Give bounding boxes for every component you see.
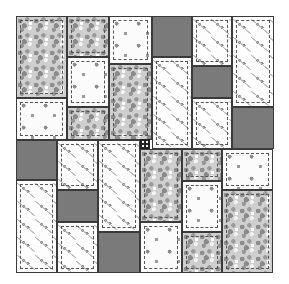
quilt-patch-white-floral (222, 149, 273, 190)
quilt-patch-white-floral (182, 181, 222, 232)
quilt-patch-white-branch (57, 222, 98, 273)
quilt-patch-white-branch (232, 16, 274, 107)
quilt-patch-gray-floral (67, 16, 109, 57)
quilt-patch-dark-solid (192, 66, 232, 98)
quilt-patch-gray-floral (182, 149, 222, 181)
quilt-patch-gray-floral (67, 107, 109, 140)
quilt-patch-white-branch (98, 140, 140, 232)
quilt-patch-dark-solid (152, 16, 192, 57)
quilt-patch-white-floral (67, 57, 109, 107)
quilt-patch-dark-solid (16, 140, 57, 180)
quilt-patch-gray-floral (222, 190, 273, 273)
quilt-patch-gray-floral (109, 64, 152, 140)
quilt-patch-white-floral (109, 16, 152, 64)
quilt-patch-dark-solid (57, 190, 98, 222)
quilt-patch-gray-floral (182, 232, 222, 273)
quilt-patch-white-branch (192, 98, 232, 149)
quilt-patch-gray-floral (140, 149, 182, 222)
quilt-patch-white-floral (140, 222, 182, 273)
quilt-patch-gray-floral (16, 16, 67, 98)
quilt-patch-white-branch (16, 180, 57, 273)
quilt-patch-dark-solid (98, 232, 140, 273)
quilt-patch-white-branch (192, 16, 232, 66)
quilt-patch-dark-solid (232, 107, 274, 149)
pinwheel-center-mark (140, 139, 150, 149)
quilt-patch-white-branch (57, 140, 98, 190)
quilt-patch-white-branch (152, 57, 192, 149)
quilt-patch-white-floral (16, 98, 67, 140)
quilt-diagram: Pinwheel rectangle quilt layout (0, 0, 289, 284)
